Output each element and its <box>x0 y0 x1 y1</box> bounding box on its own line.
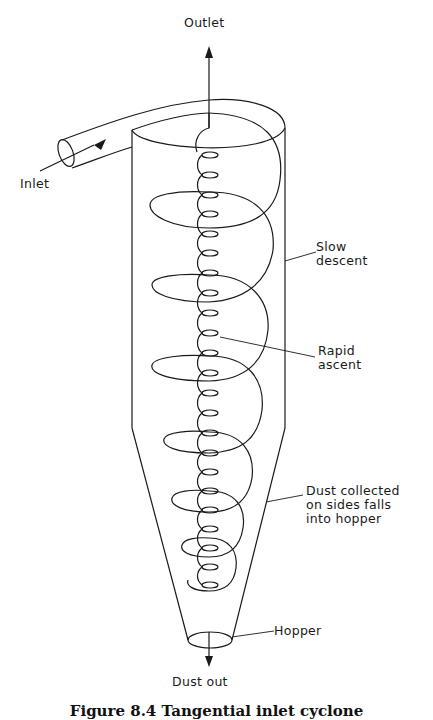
rapid-ascent-helix <box>198 152 219 588</box>
figure-caption: Figure 8.4 Tangential inlet cyclone <box>0 702 433 720</box>
hopper-opening <box>188 632 232 648</box>
slow-descent-leader <box>285 252 316 261</box>
rapid-ascent-label: Rapid ascent <box>318 344 361 372</box>
outlet-label: Outlet <box>184 16 225 30</box>
slow-descent-spiral <box>150 113 281 591</box>
inlet-label: Inlet <box>20 177 49 191</box>
dust-collected-label: Dust collected on sides falls into hoppe… <box>306 484 400 526</box>
inlet-pipe <box>40 100 285 171</box>
dust-out-label: Dust out <box>172 675 228 689</box>
hopper-leader <box>232 631 274 637</box>
dust-out-arrow-icon <box>205 632 213 667</box>
dust-collected-leader <box>266 495 303 502</box>
hopper-label: Hopper <box>274 624 322 638</box>
inlet-leader-line <box>40 145 94 171</box>
inlet-flow-arrow-icon <box>94 139 106 150</box>
cyclone-cone <box>132 428 285 640</box>
rapid-ascent-leader <box>220 337 315 357</box>
slow-descent-label: Slow descent <box>316 240 368 268</box>
